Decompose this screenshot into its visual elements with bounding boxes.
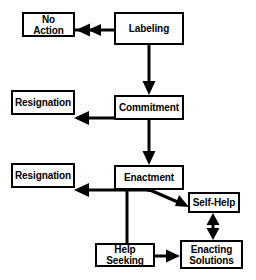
node-commitment-label: Commitment [117,102,181,113]
node-self-help-label: Self-Help [191,197,237,208]
node-resignation-enactment-label: Resignation [13,170,73,181]
node-resignation-commitment[interactable]: Resignation [11,90,75,115]
edge-labeling-to-no-action [75,24,114,37]
node-self-help[interactable]: Self-Help [188,192,240,213]
edge-labeling-to-commitment [143,45,156,95]
node-labeling[interactable]: Labeling [114,12,184,45]
edge-self-help-enacting-solutions [207,213,220,240]
node-resignation-commitment-label: Resignation [13,97,73,108]
node-help-seeking-label: Help Seeking [97,244,153,266]
node-enactment-label: Enactment [122,172,176,183]
node-no-action-label: No Action [24,14,73,36]
edge-help-seeking-to-enacting-solutions [155,250,180,263]
figure-caption-fragment [44,270,134,278]
node-enacting-solutions-label: Enacting Solutions [187,244,236,266]
node-enactment[interactable]: Enactment [114,165,184,190]
node-no-action[interactable]: No Action [22,12,75,37]
node-resignation-enactment[interactable]: Resignation [11,163,75,188]
flowchart-diagram: No Action Labeling Resignation Commitmen… [0,0,256,280]
node-labeling-label: Labeling [127,23,171,34]
node-help-seeking[interactable]: Help Seeking [95,243,155,267]
node-enacting-solutions[interactable]: Enacting Solutions [180,240,243,269]
edge-enactment-to-self-help [150,190,189,207]
node-commitment[interactable]: Commitment [114,95,184,120]
edge-commitment-to-enactment [143,120,156,165]
